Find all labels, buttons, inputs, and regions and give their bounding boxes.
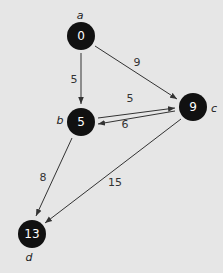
node-value-c: 9 — [189, 100, 197, 114]
node-label-c: c — [211, 102, 217, 115]
node-label-a: a — [77, 9, 84, 22]
edge-weight-b-d: 8 — [40, 171, 47, 184]
edge-a-c — [95, 46, 177, 99]
node-c: 9 c — [179, 93, 217, 121]
graph-diagram: 5 9 5 6 8 15 a 0 b 5 9 c 13 d — [0, 0, 223, 273]
node-d: 13 d — [18, 220, 46, 264]
edge-weight-b-c: 5 — [127, 92, 134, 105]
node-label-d: d — [26, 251, 34, 264]
edge-weight-c-b: 6 — [122, 118, 129, 131]
node-value-a: 0 — [77, 29, 85, 43]
edges: 5 9 5 6 8 15 — [36, 46, 181, 223]
edge-c-d — [45, 119, 181, 223]
node-value-b: 5 — [77, 115, 85, 129]
edge-weight-a-b: 5 — [71, 73, 78, 86]
node-value-d: 13 — [24, 227, 39, 241]
edge-weight-c-d: 15 — [108, 176, 122, 189]
node-label-b: b — [57, 114, 64, 127]
node-a: a 0 — [67, 9, 95, 51]
node-b: b 5 — [57, 108, 95, 136]
edge-weight-a-c: 9 — [134, 56, 141, 69]
